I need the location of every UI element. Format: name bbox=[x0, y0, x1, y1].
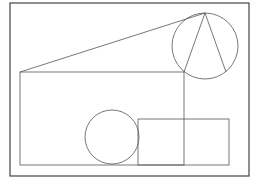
diagram-svg bbox=[0, 0, 263, 186]
background bbox=[0, 0, 263, 186]
geometry-diagram bbox=[0, 0, 263, 186]
